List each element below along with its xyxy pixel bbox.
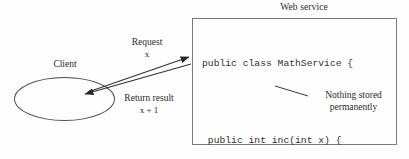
response-payload-text: x + 1 <box>106 104 192 116</box>
request-arrow-label: Request x <box>108 36 186 60</box>
annotation-line-2: permanently <box>306 101 401 113</box>
response-label-text: Return result <box>124 93 173 103</box>
annotation-label: Nothing stored permanently <box>306 89 401 113</box>
web-service-label: Web service <box>249 2 359 12</box>
response-arrow-label: Return result x + 1 <box>106 92 192 116</box>
client-label: Client <box>30 59 100 69</box>
client-ellipse <box>14 77 115 121</box>
diagram-canvas: Web service public class MathService { p… <box>0 0 409 159</box>
code-line-1: public class MathService { <box>202 57 353 71</box>
code-line-3: public int inc(int x) { <box>202 134 353 148</box>
request-label-text: Request <box>132 37 163 47</box>
request-payload-text: x <box>108 48 186 60</box>
annotation-line-1: Nothing stored <box>325 90 382 100</box>
